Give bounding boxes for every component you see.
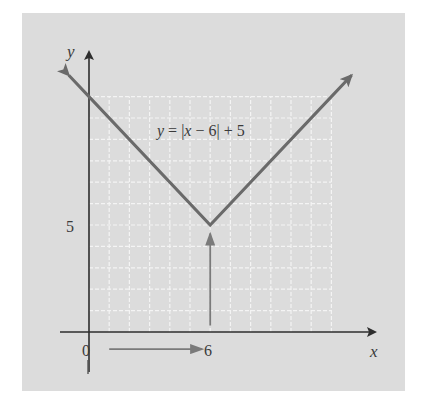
y-axis-label: y	[65, 42, 75, 61]
equation-label: y = |x − 6| + 5	[155, 122, 245, 140]
x-axis-label: x	[369, 342, 378, 361]
y-tick-5: 5	[66, 218, 74, 235]
absolute-value-graph: y x 5 0 6 y = |x − 6| + 5	[0, 0, 429, 407]
x-tick-6: 6	[204, 342, 212, 359]
chart-background	[22, 13, 405, 391]
x-tick-0: 0	[82, 342, 90, 359]
